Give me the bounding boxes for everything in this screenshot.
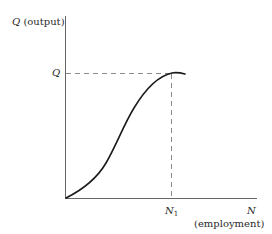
q-tick-label: Q xyxy=(52,67,60,79)
n1-base: N xyxy=(165,205,174,216)
production-function-diagram xyxy=(0,0,272,234)
y-axis-label: Q (output) xyxy=(12,16,65,28)
x-axis-symbol: N xyxy=(247,205,256,217)
y-axis-symbol: Q xyxy=(12,16,20,27)
n1-tick-label: N1 xyxy=(165,205,178,220)
x-axis-caption: (employment) xyxy=(194,218,264,230)
y-axis-caption: (output) xyxy=(23,16,64,27)
n1-subscript: 1 xyxy=(174,210,178,218)
output-curve xyxy=(66,73,185,198)
